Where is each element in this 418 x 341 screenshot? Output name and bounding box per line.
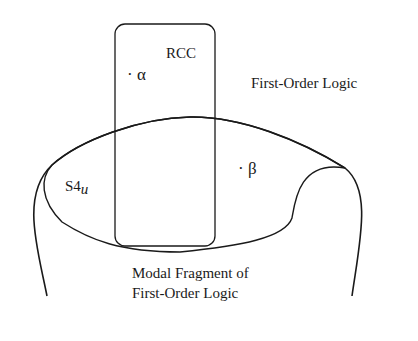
modal-fragment-label-line1: Modal Fragment of bbox=[132, 263, 249, 283]
venn-diagram: RCC · α First-Order Logic S4u · β Modal … bbox=[0, 0, 418, 341]
first-order-logic-label: First-Order Logic bbox=[251, 74, 357, 92]
s4u-label-subscript: u bbox=[81, 181, 89, 197]
alpha-point: · α bbox=[127, 66, 146, 84]
s4u-label: S4u bbox=[65, 177, 88, 198]
beta-point: · β bbox=[238, 160, 257, 178]
modal-fragment-label-line2: First-Order Logic bbox=[132, 283, 249, 303]
s4u-label-main: S4 bbox=[65, 178, 81, 194]
modal-fragment-label: Modal Fragment of First-Order Logic bbox=[132, 263, 249, 303]
s4u-boundary bbox=[44, 117, 345, 252]
rcc-label: RCC bbox=[166, 44, 196, 62]
rcc-boundary bbox=[115, 24, 215, 246]
